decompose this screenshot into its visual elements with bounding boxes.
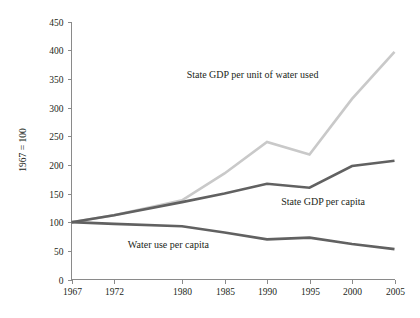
y-tick-label: 450 [49, 18, 64, 28]
series-line [72, 222, 395, 249]
y-tick-label: 100 [49, 218, 64, 228]
x-tick-label: 1985 [216, 287, 235, 297]
chart-container: 050100150200250300350400450 196719721980… [0, 0, 420, 318]
y-axis-tick-labels: 050100150200250300350400450 [49, 18, 64, 286]
x-tick-label: 1972 [105, 287, 124, 297]
series-line [72, 161, 395, 222]
x-tick-label: 2005 [386, 287, 405, 297]
y-tick-label: 400 [49, 46, 64, 56]
y-tick-label: 250 [49, 132, 64, 142]
chart-series-group [72, 52, 395, 249]
y-axis-ticks [68, 23, 72, 281]
x-tick-label: 1995 [301, 287, 320, 297]
x-tick-label: 2000 [343, 287, 362, 297]
series-annotation: State GDP per unit of water used [187, 69, 319, 80]
y-axis-label: 1967 = 100 [18, 128, 28, 172]
chart-axes [72, 22, 395, 280]
y-tick-label: 0 [59, 276, 64, 286]
x-tick-label: 1980 [173, 287, 192, 297]
line-chart: 050100150200250300350400450 196719721980… [0, 0, 420, 318]
chart-series-annotations: State GDP per unit of water usedState GD… [128, 69, 366, 250]
y-tick-label: 350 [49, 75, 64, 85]
y-tick-label: 150 [49, 190, 64, 200]
x-tick-label: 1967 [63, 287, 82, 297]
series-annotation: State GDP per capita [281, 196, 365, 207]
x-axis-tick-labels: 19671972198019851990199520002005 [63, 287, 405, 297]
series-annotation: Water use per capita [128, 239, 210, 250]
x-tick-label: 1990 [258, 287, 277, 297]
y-tick-label: 300 [49, 104, 64, 114]
x-axis-ticks [73, 280, 396, 284]
y-tick-label: 200 [49, 161, 64, 171]
y-tick-label: 50 [54, 247, 64, 257]
